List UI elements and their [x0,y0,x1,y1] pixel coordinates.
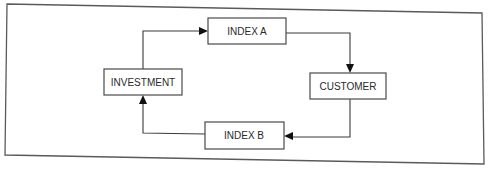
flow-diagram: INVESTMENT INDEX A CUSTOMER INDEX B [0,0,489,169]
node-index-a-label: INDEX A [227,26,267,37]
node-investment-label: INVESTMENT [111,77,175,88]
node-index-a: INDEX A [208,18,286,44]
node-customer: CUSTOMER [310,73,386,99]
node-customer-label: CUSTOMER [319,81,376,92]
arrow-left-icon [284,132,293,140]
arrow-down-icon [346,64,354,73]
arrow-right-icon [199,27,208,35]
arrow-up-icon [139,95,147,104]
node-investment: INVESTMENT [104,69,182,95]
node-index-b: INDEX B [205,122,284,149]
edge-customer-to-index-b [284,98,350,140]
edge-investment-to-index-a [143,27,208,69]
edge-index-b-to-investment [139,95,205,134]
node-index-b-label: INDEX B [224,130,264,141]
edge-index-a-to-customer [286,33,354,73]
